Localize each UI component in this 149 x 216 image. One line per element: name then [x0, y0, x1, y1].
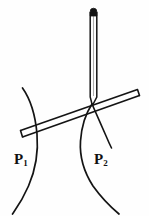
label-p2: P2: [94, 152, 108, 167]
label-p1-base: P: [14, 151, 23, 167]
label-p1-subscript: 1: [23, 158, 28, 168]
needle-tip-icon: [90, 8, 97, 16]
label-p2-base: P: [94, 151, 103, 167]
diagram-background: [0, 0, 149, 216]
label-p2-subscript: 2: [103, 158, 108, 168]
figure-container: P1 P2: [0, 0, 149, 216]
technical-diagram: [0, 0, 149, 216]
contact-point: [91, 103, 94, 106]
label-p1: P1: [14, 152, 28, 167]
